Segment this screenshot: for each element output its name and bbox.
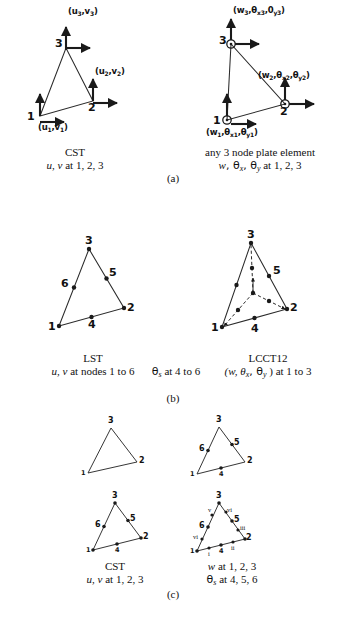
node-label-2-b-right: 2 [290, 301, 298, 314]
dof-label-node3-a-right: (w3,θx3,0y3) [233, 5, 285, 16]
caption-a-right: any 3 node plate element w, θx, θy at 1,… [185, 146, 335, 175]
node-label-4-b-left: 4 [88, 318, 96, 331]
node-label-3-c-bl: 3 [112, 491, 118, 500]
node-label-2-c-bl: 2 [143, 532, 149, 541]
node-label-1-b-left: 1 [48, 320, 56, 333]
dof-label-node1-a-right: (w1,θx1,θy1) [206, 127, 258, 138]
part-b-lcct12-triangle [220, 241, 289, 329]
node-label-4-b-right: 4 [251, 322, 259, 335]
caption-b-right-line1: LCCT12 [198, 352, 338, 365]
node-label-6-c-tr: 6 [199, 444, 205, 453]
node-label-5-b-left: 5 [109, 266, 117, 279]
caption-a-left: CST u, v at 1, 2, 3 [20, 146, 130, 171]
figure-root: (u3,v3) (u2,v2) (u1,v1) 1 2 3 (w3,θx3,0y… [0, 0, 346, 617]
node-label-1-c-tl: 1 [81, 469, 86, 477]
caption-b-right-line2: (w, θx, θy ) at 1 to 3 [198, 365, 338, 382]
caption-c-right-line1: w at 1, 2, 3 [172, 560, 292, 573]
node-label-4-c-br: 4 [219, 547, 224, 555]
node-label-5-c-tr: 5 [234, 438, 240, 447]
part-label-a: (a) [148, 172, 198, 184]
dof-label-node2-a-left: (u2,v2) [95, 66, 125, 77]
caption-a-left-line1: CST [20, 146, 130, 159]
node-label-5-c-bl: 5 [130, 514, 136, 523]
caption-b-right: LCCT12 (w, θx, θy ) at 1 to 3 [198, 352, 338, 381]
caption-c-left: CST u, v at 1, 2, 3 [55, 560, 175, 585]
caption-c-right: w at 1, 2, 3 θs at 4, 5, 6 [172, 560, 292, 589]
dof-label-node1-a-left: (u1,v1) [38, 122, 68, 133]
node-label-2-c-tl: 2 [139, 456, 145, 465]
node-label-3-c-br: 3 [216, 491, 222, 500]
node-label-3-c-tr: 3 [216, 415, 222, 424]
node-label-6-c-br: 6 [199, 521, 205, 530]
node-label-3-b-right: 3 [247, 228, 255, 241]
node-label-2-c-br: 2 [246, 533, 252, 542]
node-label-1-c-br: 1 [190, 547, 195, 555]
roman-label-iv-c-br: vi [193, 533, 198, 540]
node-label-6-b-left: 6 [61, 277, 69, 290]
roman-label-iii-c-br: iii [240, 524, 245, 531]
dof-label-node3-a-left: (u3,v3) [68, 6, 98, 17]
roman-label-i-c-br: i [208, 550, 210, 557]
node-label-2-b-left: 2 [127, 301, 135, 314]
caption-c-right-line2: θs at 4, 5, 6 [172, 573, 292, 590]
dof-label-node2-a-right: (w2,θx2,θy2) [258, 70, 310, 81]
node-label-3-b-left: 3 [85, 234, 93, 247]
node-label-5-b-right: 5 [273, 264, 281, 277]
caption-b-left-line1: LST [28, 352, 158, 365]
caption-a-right-line1: any 3 node plate element [185, 146, 335, 159]
caption-c-left-line2: u, v at 1, 2, 3 [55, 573, 175, 586]
node-label-2-a-right: 2 [280, 105, 288, 118]
node-label-2-c-tr: 2 [247, 456, 253, 465]
node-label-5-c-br: 5 [234, 515, 240, 524]
part-c-top-left-triangle [88, 428, 137, 473]
node-label-1-c-bl: 1 [86, 546, 91, 554]
roman-label-v-c-br: v [208, 506, 211, 513]
node-label-4-c-tr: 4 [219, 470, 224, 478]
node-label-3-a-left: 3 [55, 37, 63, 50]
caption-a-right-line2: w, θx, θy at 1, 2, 3 [185, 159, 335, 176]
node-label-3-c-tl: 3 [108, 416, 114, 425]
node-label-1-c-tr: 1 [190, 470, 195, 478]
caption-c-left-line1: CST [55, 560, 175, 573]
part-label-c: (c) [148, 588, 198, 600]
node-label-6-c-bl: 6 [95, 520, 101, 529]
node-label-3-a-right: 3 [219, 34, 227, 47]
node-label-1-a-left: 1 [27, 110, 35, 123]
node-label-2-a-left: 2 [88, 101, 96, 114]
roman-label-ii-c-br: ii [231, 544, 235, 551]
node-label-1-b-right: 1 [211, 321, 219, 334]
part-label-b: (b) [148, 392, 198, 404]
node-label-1-a-right: 1 [213, 114, 221, 127]
roman-label-vi-c-br: vi [227, 506, 232, 513]
caption-a-left-line2: u, v at 1, 2, 3 [20, 159, 130, 172]
node-label-4-c-bl: 4 [115, 546, 120, 554]
